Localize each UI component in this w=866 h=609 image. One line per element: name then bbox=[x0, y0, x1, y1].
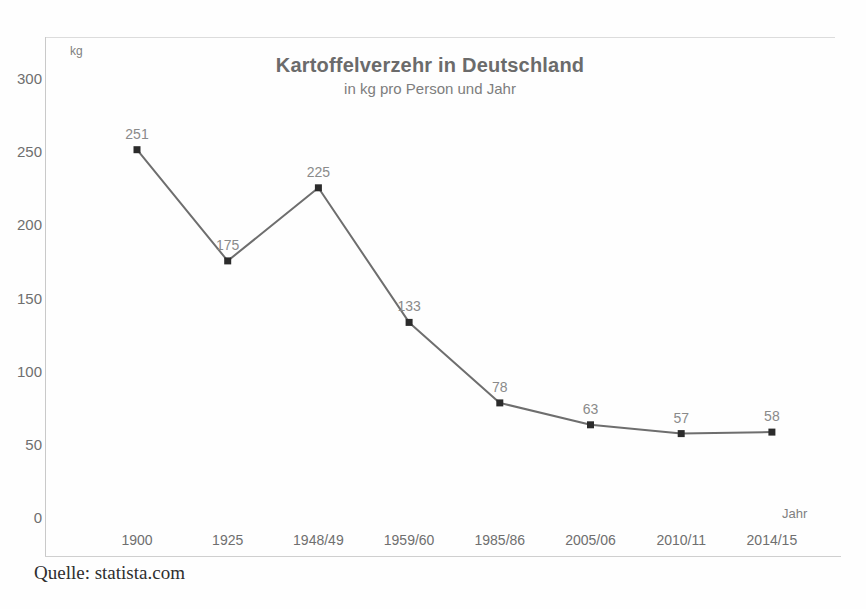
point-label-2010-11: 57 bbox=[673, 410, 689, 426]
point-label-1925: 175 bbox=[216, 237, 239, 253]
data-point-marker bbox=[134, 146, 141, 153]
data-point-marker bbox=[406, 319, 413, 326]
chart-page: Kartoffelverzehr in Deutschland in kg pr… bbox=[0, 0, 866, 609]
data-point-marker bbox=[587, 421, 594, 428]
x-tick-1948-49: 1948/49 bbox=[272, 532, 364, 548]
data-point-marker bbox=[224, 257, 231, 264]
x-tick-1985-86: 1985/86 bbox=[454, 532, 546, 548]
source-caption: Quelle: statista.com bbox=[34, 562, 185, 584]
y-axis-unit-label: kg bbox=[70, 44, 83, 58]
y-tick-150: 150 bbox=[0, 289, 42, 306]
y-tick-300: 300 bbox=[0, 70, 42, 87]
point-label-1959-60: 133 bbox=[397, 298, 420, 314]
point-label-2014-15: 58 bbox=[764, 408, 780, 424]
data-point-marker bbox=[496, 399, 503, 406]
x-tick-2010-11: 2010/11 bbox=[635, 532, 727, 548]
point-label-1985-86: 78 bbox=[492, 379, 508, 395]
data-point-marker bbox=[768, 429, 775, 436]
x-tick-2014-15: 2014/15 bbox=[726, 532, 818, 548]
point-label-2005-06: 63 bbox=[583, 401, 599, 417]
y-tick-100: 100 bbox=[0, 362, 42, 379]
x-tick-2005-06: 2005/06 bbox=[545, 532, 637, 548]
y-tick-0: 0 bbox=[0, 509, 42, 526]
x-tick-1959-60: 1959/60 bbox=[363, 532, 455, 548]
data-point-marker bbox=[315, 184, 322, 191]
x-axis-label: Jahr bbox=[782, 506, 807, 521]
point-label-1900: 251 bbox=[125, 126, 148, 142]
data-point-marker bbox=[678, 430, 685, 437]
chart-subtitle: in kg pro Person und Jahr bbox=[120, 80, 740, 97]
x-axis-bottom-rule bbox=[45, 556, 841, 557]
y-tick-200: 200 bbox=[0, 216, 42, 233]
y-tick-50: 50 bbox=[0, 435, 42, 452]
page-top-rule bbox=[45, 37, 835, 38]
y-axis-line bbox=[45, 37, 46, 556]
x-tick-1900: 1900 bbox=[91, 532, 183, 548]
chart-title: Kartoffelverzehr in Deutschland bbox=[120, 54, 740, 77]
x-tick-1925: 1925 bbox=[182, 532, 274, 548]
y-tick-250: 250 bbox=[0, 143, 42, 160]
series-line bbox=[137, 150, 772, 434]
series-markers bbox=[134, 146, 776, 437]
point-label-1948-49: 225 bbox=[307, 164, 330, 180]
